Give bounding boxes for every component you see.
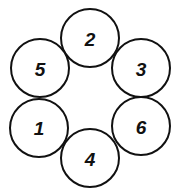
circle-label: 3	[136, 59, 147, 80]
circle-label: 5	[35, 59, 46, 80]
circle-node-2: 2	[61, 9, 119, 67]
circle-node-4: 4	[61, 129, 119, 187]
circle-label: 4	[84, 149, 96, 170]
circle-label: 2	[84, 29, 96, 50]
circle-ring-diagram: 2 5 3 1 6 4	[0, 0, 181, 195]
circle-label: 6	[136, 117, 147, 138]
circle-node-6: 6	[112, 97, 170, 155]
circle-node-3: 3	[112, 39, 170, 97]
circle-node-1: 1	[10, 99, 68, 157]
circle-label: 1	[34, 118, 45, 139]
circle-node-5: 5	[11, 39, 69, 97]
